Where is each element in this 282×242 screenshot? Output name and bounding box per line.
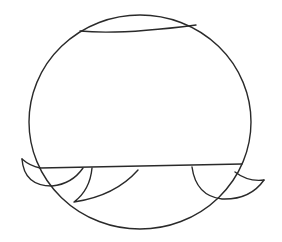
top-chord-line	[80, 25, 196, 32]
left-fin-shape	[22, 159, 83, 186]
sketch-canvas	[0, 0, 282, 242]
middle-fin-shape	[74, 168, 138, 202]
right-fin-tip	[235, 172, 264, 180]
right-arc-shape	[192, 167, 264, 199]
main-circle	[29, 15, 251, 229]
horizontal-line	[40, 164, 242, 168]
